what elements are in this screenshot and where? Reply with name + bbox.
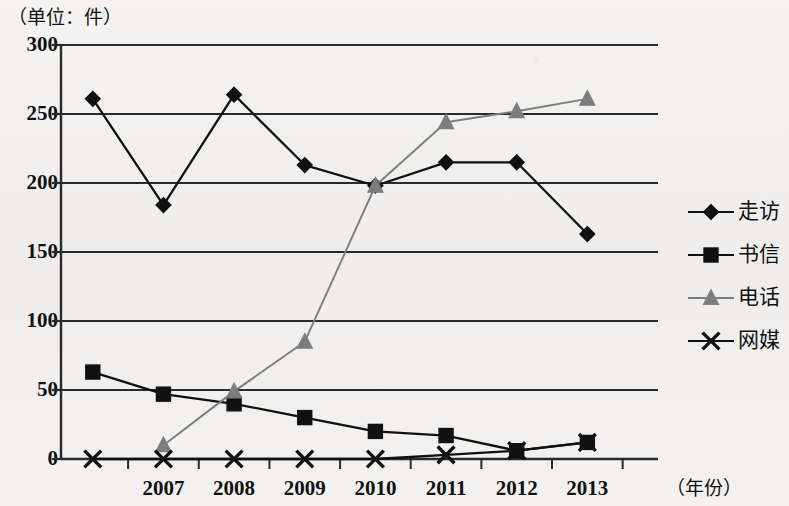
chart-container: （单位：件） 050100150200250300 20072008200920… bbox=[0, 0, 789, 506]
square-glyph bbox=[298, 411, 312, 425]
square-marker bbox=[227, 397, 241, 411]
series-triangle bbox=[156, 91, 595, 452]
square-marker bbox=[156, 387, 170, 401]
square-glyph bbox=[704, 248, 718, 262]
x-marker bbox=[703, 332, 720, 349]
series-line bbox=[163, 99, 587, 445]
data-series-layer bbox=[84, 87, 595, 467]
x-axis-tick-label: 2011 bbox=[406, 478, 486, 499]
square-marker bbox=[86, 365, 100, 379]
diamond-glyph bbox=[86, 92, 100, 106]
series-line bbox=[93, 372, 588, 451]
triangle-glyph bbox=[156, 437, 171, 452]
legend-item-diamond[interactable]: 走访 bbox=[688, 190, 789, 233]
x-axis-title: （年份） bbox=[666, 479, 742, 498]
square-glyph bbox=[368, 424, 382, 438]
diamond-glyph bbox=[704, 204, 718, 218]
diamond-marker bbox=[156, 198, 170, 212]
legend-key bbox=[688, 330, 734, 352]
x-axis-tick-label: 2007 bbox=[123, 478, 203, 499]
legend-label: 书信 bbox=[734, 244, 780, 265]
triangle-marker bbox=[703, 289, 718, 304]
diamond-glyph bbox=[439, 155, 453, 169]
diamond-marker bbox=[86, 92, 100, 106]
legend-label: 电话 bbox=[734, 287, 780, 308]
legend-label: 走访 bbox=[734, 201, 780, 222]
x-axis-tick-label: 2013 bbox=[547, 478, 627, 499]
square-marker bbox=[698, 243, 724, 267]
diamond-glyph bbox=[156, 198, 170, 212]
square-marker bbox=[368, 424, 382, 438]
legend-item-triangle[interactable]: 电话 bbox=[688, 276, 789, 319]
triangle-glyph bbox=[297, 334, 312, 349]
legend-item-square[interactable]: 书信 bbox=[688, 233, 789, 276]
triangle-glyph bbox=[580, 91, 595, 106]
chart-legend: 走访书信电话网媒 bbox=[688, 190, 789, 362]
diamond-marker bbox=[439, 155, 453, 169]
axis-lines bbox=[52, 45, 61, 460]
legend-item-x[interactable]: 网媒 bbox=[688, 319, 789, 362]
triangle-marker bbox=[698, 286, 724, 310]
square-glyph bbox=[227, 397, 241, 411]
legend-key bbox=[688, 244, 734, 266]
legend-key bbox=[688, 201, 734, 223]
square-marker bbox=[298, 411, 312, 425]
square-glyph bbox=[156, 387, 170, 401]
x-axis-tick-label: 2009 bbox=[265, 478, 345, 499]
triangle-marker bbox=[297, 334, 312, 349]
diamond-marker bbox=[704, 204, 718, 218]
square-glyph bbox=[86, 365, 100, 379]
triangle-glyph bbox=[703, 289, 718, 304]
square-marker bbox=[704, 248, 718, 262]
x-axis-tick-label: 2010 bbox=[335, 478, 415, 499]
x-marker bbox=[698, 329, 724, 353]
line-chart-plot bbox=[0, 0, 789, 506]
legend-key bbox=[688, 287, 734, 309]
square-glyph bbox=[439, 429, 453, 443]
square-marker bbox=[439, 429, 453, 443]
triangle-marker bbox=[156, 437, 171, 452]
triangle-marker bbox=[580, 91, 595, 106]
x-axis-tick-label: 2008 bbox=[194, 478, 274, 499]
x-axis-tick-label: 2012 bbox=[477, 478, 557, 499]
legend-label: 网媒 bbox=[734, 330, 780, 351]
gridlines bbox=[61, 45, 658, 459]
diamond-marker bbox=[698, 200, 724, 224]
